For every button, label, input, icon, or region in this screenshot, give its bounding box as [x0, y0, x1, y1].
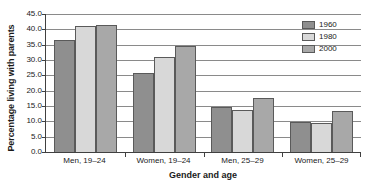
legend-color-swatch [302, 45, 315, 53]
y-axis-tick-label: 20.0 [17, 87, 42, 95]
y-axis-tick-label: 15.0 [17, 102, 42, 110]
bar-group [125, 14, 204, 152]
bar-group [204, 14, 283, 152]
legend-color-swatch [302, 33, 315, 41]
x-axis-tick-label: Men, 25–29 [203, 156, 282, 166]
legend-item[interactable]: 1960 [302, 19, 358, 30]
legend-label: 1960 [319, 20, 337, 29]
bar[interactable] [332, 111, 353, 152]
bar-chart: Percentage living with parents 0.05.010.… [0, 0, 376, 192]
y-axis-tick-labels: 0.05.010.015.020.025.030.035.040.045.0 [17, 14, 42, 152]
x-axis-title: Gender and age [45, 170, 361, 181]
y-axis-title: Percentage living with parents [4, 8, 18, 168]
x-axis-tick-labels: Men, 19–24Women, 19–24Men, 25–29Women, 2… [45, 156, 361, 166]
legend-item[interactable]: 1980 [302, 31, 358, 42]
y-axis-tick-label: 0.0 [17, 148, 42, 156]
legend: 196019802000 [302, 19, 358, 55]
legend-color-swatch [302, 21, 315, 29]
y-axis-tick-mark [42, 152, 46, 153]
y-axis-tick-label: 45.0 [17, 10, 42, 18]
x-axis-tick-label: Women, 25–29 [282, 156, 361, 166]
bar[interactable] [175, 46, 196, 152]
bar[interactable] [54, 40, 75, 152]
bar[interactable] [290, 122, 311, 152]
legend-item[interactable]: 2000 [302, 43, 358, 54]
bar[interactable] [154, 57, 175, 152]
bar[interactable] [133, 73, 154, 152]
y-axis-tick-label: 40.0 [17, 25, 42, 33]
bar[interactable] [253, 98, 274, 152]
y-axis-tick-label: 5.0 [17, 133, 42, 141]
x-axis-tick-label: Men, 19–24 [45, 156, 124, 166]
y-axis-tick-label: 35.0 [17, 41, 42, 49]
legend-label: 2000 [319, 44, 337, 53]
legend-label: 1980 [319, 32, 337, 41]
bar-group [46, 14, 125, 152]
y-axis-tick-label: 30.0 [17, 56, 42, 64]
y-axis-tick-label: 10.0 [17, 117, 42, 125]
x-axis-tick-label: Women, 19–24 [124, 156, 203, 166]
bar[interactable] [211, 107, 232, 152]
bar[interactable] [75, 26, 96, 152]
bar[interactable] [311, 123, 332, 152]
bar[interactable] [96, 25, 117, 152]
y-axis-tick-label: 25.0 [17, 71, 42, 79]
bar[interactable] [232, 110, 253, 152]
